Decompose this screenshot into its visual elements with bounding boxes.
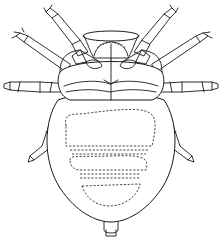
mite-illustration — [0, 0, 222, 239]
gnathosoma — [83, 31, 139, 60]
abdomen — [47, 94, 175, 222]
leg-left-1 — [44, 5, 88, 56]
figure-canvas: Mite, ventral view (line drawing) — [0, 0, 222, 239]
leg-left-2 — [12, 28, 70, 72]
leg-right-1 — [134, 5, 178, 56]
anal-tubercle — [104, 222, 118, 236]
leg-right-2 — [152, 32, 212, 72]
